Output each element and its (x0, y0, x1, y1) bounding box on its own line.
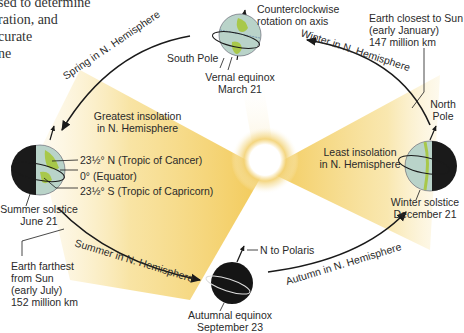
winter-solstice-date: December 21 (385, 208, 464, 220)
farthest-line4: 152 million km (11, 296, 78, 308)
winter-solstice-label: Winter solstice (385, 196, 464, 208)
south-pole-leader (220, 58, 224, 68)
polaris-label: N to Polaris (260, 244, 314, 256)
greatest-insolation-line2: in N. Hemisphere (80, 122, 195, 134)
closest-line2: (early January) (369, 24, 439, 36)
autumnal-equinox-label: Autumnal equinox (180, 309, 280, 321)
tropic-cancer-label: 23½° N (Tropic of Cancer) (80, 154, 202, 166)
spring-arc-label: Spring in N. Hemisphere (60, 8, 162, 82)
earth-vernal-equinox (211, 10, 261, 60)
vernal-equinox-label: Vernal equinox (195, 71, 285, 83)
tropic-capricorn-label: 23½° S (Tropic of Capricorn) (80, 185, 213, 197)
farthest-line1: Earth farthest (11, 260, 74, 272)
rotation-label-line1: Counterclockwise (257, 3, 339, 15)
north-pole-label-line2: Pole (423, 110, 463, 122)
farthest-line3: (early July) (11, 284, 62, 296)
sun-icon (231, 126, 299, 194)
summer-solstice-label: Summer solstice (0, 203, 78, 215)
summer-solstice-date: June 21 (0, 215, 78, 227)
farthest-line2: from Sun (11, 272, 54, 284)
south-pole-label: South Pole (167, 52, 218, 64)
least-insolation-line2: in N. Hemisphere (310, 158, 410, 170)
farthest-leader (22, 229, 64, 256)
north-pole-label-line1: North (423, 98, 463, 110)
rotation-label-line2: rotation on axis (257, 15, 328, 27)
vernal-leader (228, 57, 232, 70)
autumnal-equinox-date: September 23 (180, 321, 280, 333)
closest-line1: Earth closest to Sun (369, 12, 463, 24)
vernal-equinox-date: March 21 (195, 83, 285, 95)
greatest-insolation-line1: Greatest insolation (80, 110, 195, 122)
closest-line3: 147 million km (369, 36, 436, 48)
equator-label: 0° (Equator) (80, 170, 137, 182)
least-insolation-line1: Least insolation (310, 146, 410, 158)
